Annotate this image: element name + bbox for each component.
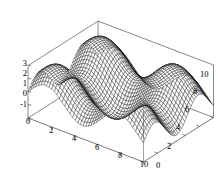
x-tick-2: 2	[49, 125, 53, 135]
y-tick-2: 2	[167, 141, 171, 151]
y-tick-4: 4	[176, 122, 181, 132]
x-tick-6: 6	[95, 142, 99, 152]
z-tick-3: 3	[23, 58, 27, 68]
x-tick-10: 10	[140, 159, 149, 169]
z-tick-minus-1: -1	[20, 99, 27, 109]
x-tick-8: 8	[118, 150, 122, 160]
tick-label-layer: 3 2 1 0 -1 0 2 4 6 8 10 0 2 4 6 8 10	[0, 0, 218, 180]
z-tick-2: 2	[23, 68, 27, 78]
z-tick-1: 1	[23, 78, 27, 88]
y-tick-0: 0	[156, 160, 160, 170]
x-tick-4: 4	[72, 133, 77, 143]
y-tick-10: 10	[200, 69, 209, 79]
x-tick-0: 0	[26, 116, 30, 126]
z-tick-0: 0	[23, 88, 27, 98]
y-tick-8: 8	[193, 86, 197, 96]
y-tick-6: 6	[185, 104, 189, 114]
surface-plot-figure: 3 2 1 0 -1 0 2 4 6 8 10 0 2 4 6 8 10	[0, 0, 218, 180]
